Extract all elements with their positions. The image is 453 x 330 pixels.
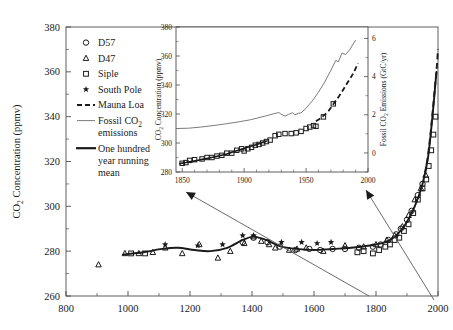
main-y-tick-label: 340: [44, 111, 60, 122]
main-y-tick-label: 380: [44, 22, 60, 33]
data-point-triangle: [96, 262, 102, 267]
inset-x-tick-label: 1850: [175, 176, 190, 185]
data-point-square: [361, 249, 366, 254]
legend-label: D47: [98, 53, 115, 64]
main-y-axis-title-text: CO2 Concentration (ppmv): [11, 104, 25, 219]
main-x-tick-label: 1200: [180, 303, 201, 314]
inset-y2-tick-label: 2: [372, 110, 376, 119]
arrow-to-inset-left: [186, 192, 369, 296]
legend-label-line2: year running: [98, 155, 149, 166]
data-point-square: [84, 71, 89, 76]
legend-item-south-pole[interactable]: South Pole: [83, 84, 142, 95]
legend-item-siple[interactable]: Siple: [84, 68, 120, 79]
arrow-to-inset-left-head: [186, 192, 196, 200]
main-y-tick-label: 260: [44, 291, 60, 302]
inset-y-axis-title: CO2 Concentration (ppmv): [154, 58, 164, 140]
figure-canvas: 2602803003203403603808001000120014001600…: [0, 0, 453, 330]
legend: D57D47SipleSouth PoleMauna LoaFossil CO2…: [76, 37, 150, 178]
main-x-tick-label: 1600: [304, 303, 325, 314]
data-point-star: [239, 232, 245, 238]
legend-item-d57[interactable]: D57: [83, 37, 115, 48]
legend-label: Mauna Loa: [98, 99, 144, 110]
inset-x-tick-label: 1900: [237, 176, 252, 185]
legend-label: Siple: [98, 68, 119, 79]
data-point-star: [162, 241, 168, 247]
arrow-to-inset-right-head: [366, 190, 374, 200]
data-point-star: [298, 239, 304, 245]
legend-item-fossil-co2-emissions[interactable]: Fossil CO2emissions: [77, 115, 142, 138]
inset-x-tick-label: 1950: [299, 176, 314, 185]
mauna-loa-curve: [425, 49, 438, 172]
data-point-star: [219, 241, 225, 247]
main-y-tick-label: 320: [44, 156, 60, 167]
data-point-star: [328, 239, 334, 245]
legend-label-line3: mean: [98, 167, 120, 178]
data-point-triangle: [83, 55, 89, 60]
data-point-circle: [83, 40, 88, 45]
inset-y-tick-label: 380: [161, 23, 173, 32]
legend-item-one-hundred-year-running-mean[interactable]: One hundredyear runningmean: [76, 143, 150, 179]
inset-plot: 28030032034036038002461850190019502000CO…: [154, 23, 389, 185]
inset-y2-axis-title: Fossil CO2 Emissions (GtC/yr): [379, 52, 389, 146]
inset-y-tick-label: 280: [161, 168, 173, 177]
inset-y2-tick-label: 6: [372, 34, 376, 43]
inset-x-tick-label: 2000: [361, 176, 376, 185]
main-x-tick-label: 1000: [118, 303, 139, 314]
data-point-square: [377, 248, 382, 253]
data-point-square: [371, 251, 376, 256]
main-x-tick-label: 800: [58, 303, 74, 314]
legend-item-mauna-loa[interactable]: Mauna Loa: [77, 99, 144, 110]
main-x-tick-label: 2000: [428, 303, 449, 314]
legend-label-line2: emissions: [98, 127, 138, 138]
data-point-triangle: [215, 255, 221, 260]
main-x-tick-label: 1400: [242, 303, 263, 314]
data-point-star: [83, 86, 89, 92]
main-y-axis: 260280300320340360380: [44, 22, 71, 302]
inset-y-axis-title-text: CO2 Concentration (ppmv): [154, 58, 164, 140]
legend-label: D57: [98, 37, 115, 48]
main-y-axis-title: CO2 Concentration (ppmv): [11, 104, 25, 219]
main-y-tick-label: 360: [44, 66, 60, 77]
legend-item-d47[interactable]: D47: [83, 53, 115, 64]
legend-label: One hundred: [98, 143, 150, 154]
inset-y2-tick-label: 4: [372, 72, 376, 81]
co2-concentration-figure: 2602803003203403603808001000120014001600…: [0, 0, 453, 330]
legend-label: South Pole: [98, 84, 142, 95]
series-mauna-loa: [425, 49, 438, 172]
main-y-tick-label: 280: [44, 246, 60, 257]
data-point-star: [314, 240, 320, 246]
main-y-tick-label: 300: [44, 201, 60, 212]
data-point-square: [433, 114, 438, 119]
inset-y2-tick-label: 0: [372, 149, 376, 158]
data-point-triangle: [179, 250, 185, 255]
main-x-tick-label: 1800: [366, 303, 387, 314]
inset-background: [176, 27, 368, 172]
main-x-axis: 800100012001400160018002000: [58, 291, 448, 314]
data-point-triangle: [228, 248, 234, 253]
inset-y2-axis-title-text: Fossil CO2 Emissions (GtC/yr): [379, 52, 389, 146]
